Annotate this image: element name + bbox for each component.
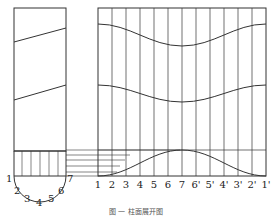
station-label: 6 (165, 179, 171, 190)
station-label: 4 (137, 179, 143, 190)
base-label-6: 6 (58, 185, 64, 196)
base-label-5: 5 (48, 193, 54, 204)
projection-lines (66, 150, 180, 176)
station-label: 1' (261, 179, 270, 190)
front-view (14, 8, 66, 202)
station-label: 4' (219, 179, 228, 190)
base-labels: 1 2 3 4 5 6 7 (6, 173, 73, 208)
base-label-7: 7 (67, 173, 73, 184)
station-label: 3' (233, 179, 242, 190)
station-label: 2 (109, 179, 115, 190)
station-label: 6' (191, 179, 200, 190)
station-label: 5 (151, 179, 157, 190)
figure-caption: 图 一 柱面展开图 (109, 207, 162, 216)
station-label: 3 (123, 179, 129, 190)
station-labels: 1 2 3 4 5 6 7 6' 5' 4' 3' 2' 1' (95, 179, 271, 190)
development-grid (98, 8, 266, 176)
base-label-2: 2 (14, 185, 20, 196)
station-label: 2' (247, 179, 256, 190)
base-label-3: 3 (24, 193, 30, 204)
base-label-4: 4 (36, 197, 42, 208)
station-label: 5' (205, 179, 214, 190)
station-label: 1 (95, 179, 101, 190)
station-label: 7 (179, 179, 185, 190)
development-diagram: 1 2 3 4 5 6 7 1 2 3 4 5 6 7 6' 5' 4' 3' … (0, 0, 272, 220)
base-label-1: 1 (6, 173, 12, 184)
